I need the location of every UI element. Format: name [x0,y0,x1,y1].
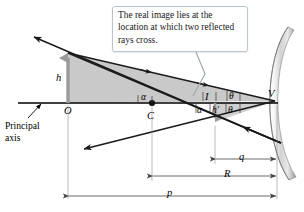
label-object-height: h [56,73,61,84]
label-radius-of-curvature: R [224,169,230,180]
label-principal-axis: Principal axis [5,120,40,143]
label-alpha-upper: α [141,93,146,103]
label-image-point: I [205,92,209,103]
label-image-height: h′ [212,106,219,116]
label-vertex: V [268,89,274,100]
label-object-point: O [64,106,72,117]
label-object-distance: p [167,188,172,199]
label-principal-axis-line1: Principal [5,120,40,132]
label-principal-axis-line2: axis [5,132,40,144]
dimension-witness-lines [68,105,277,199]
label-image-distance: q [239,152,244,163]
label-theta-upper: θ [229,92,234,102]
principal-axis-leader [28,104,41,118]
label-theta-lower: θ [228,106,233,116]
callout-text: The real image lies at the location at w… [118,9,244,46]
label-alpha-lower: α [197,106,202,116]
label-center-of-curvature: C [147,111,154,122]
ray-diagram-figure: The real image lies at the location at w… [0,0,304,212]
